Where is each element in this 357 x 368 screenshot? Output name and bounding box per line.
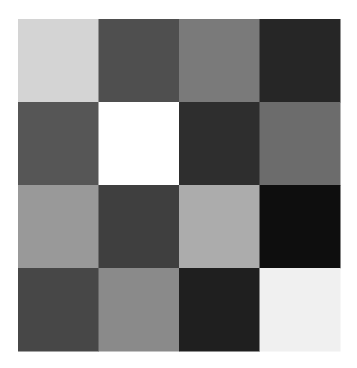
heatmap-cell-r3-c0 (18, 268, 99, 352)
heatmap-cell-r0-c0 (18, 19, 99, 103)
heatmap-cell-r0-c3 (260, 19, 341, 103)
heatmap-cell-r1-c2 (179, 102, 260, 186)
heatmap-cell-r1-c3 (260, 102, 341, 186)
heatmap-cell-r2-c0 (18, 185, 99, 269)
heatmap-chart (0, 0, 357, 368)
heatmap-cell-r0-c1 (99, 19, 180, 103)
heatmap-cell-r0-c2 (179, 19, 260, 103)
heatmap-cell-r3-c1 (99, 268, 180, 352)
heatmap-cell-r2-c3 (260, 185, 341, 269)
heatmap-cell-r2-c2 (179, 185, 260, 269)
heatmap-cell-r1-c1 (99, 102, 180, 186)
heatmap-cell-r3-c3 (260, 268, 341, 352)
heatmap-cell-r2-c1 (99, 185, 180, 269)
heatmap-cell-r3-c2 (179, 268, 260, 352)
heatmap-cells (18, 19, 341, 352)
heatmap-cell-r1-c0 (18, 102, 99, 186)
